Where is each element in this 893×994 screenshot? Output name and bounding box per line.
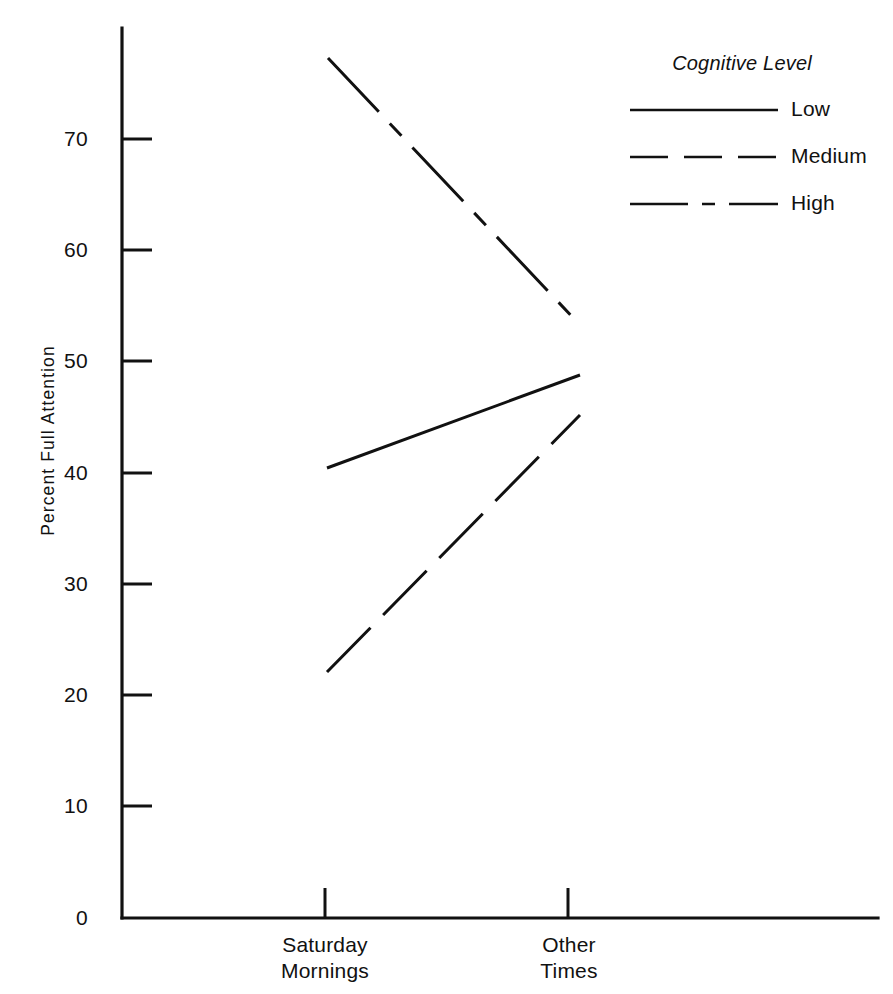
y-tick-label-30: 30 (28, 572, 88, 596)
x-tick-label-other-times-line2: Times (489, 958, 649, 984)
legend-item-high: High (628, 191, 878, 238)
legend-swatch-medium-icon (628, 150, 780, 164)
series-line-low (327, 375, 580, 468)
x-tick-label-saturday-mornings: Saturday Mornings (245, 932, 405, 983)
legend-label-low: Low (791, 97, 830, 121)
series-line-high (328, 58, 580, 325)
y-tick-label-70: 70 (28, 127, 88, 151)
y-tick-label-20: 20 (28, 683, 88, 707)
line-chart-figure: Percent Full Attention 70 60 50 40 30 20… (0, 0, 893, 994)
legend-swatch-high-icon (628, 197, 780, 211)
y-tick-label-10: 10 (28, 794, 88, 818)
legend-item-low: Low (628, 97, 878, 144)
legend-title: Cognitive Level (638, 52, 846, 75)
y-tick-label-60: 60 (28, 238, 88, 262)
x-tick-label-other-times-line1: Other (489, 932, 649, 958)
y-tick-label-40: 40 (28, 461, 88, 485)
legend-swatch-low-icon (628, 103, 780, 117)
x-tick-label-saturday-mornings-line1: Saturday (245, 932, 405, 958)
chart-legend: Cognitive Level Low Medium High (628, 52, 878, 238)
x-tick-label-other-times: Other Times (489, 932, 649, 983)
y-tick-label-0: 0 (28, 906, 88, 930)
legend-label-high: High (791, 191, 835, 215)
y-tick-label-50: 50 (28, 349, 88, 373)
legend-item-medium: Medium (628, 144, 878, 191)
legend-label-medium: Medium (791, 144, 867, 168)
x-tick-label-saturday-mornings-line2: Mornings (245, 958, 405, 984)
